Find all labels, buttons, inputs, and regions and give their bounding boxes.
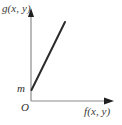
x-axis-label: f(x, y) xyxy=(84,106,110,117)
x-axis-arrow-icon xyxy=(104,98,114,105)
y-axis-label: g(x, y) xyxy=(2,3,31,14)
figure-container: g(x, y) f(x, y) m O xyxy=(0,0,122,125)
y-intercept-label: m xyxy=(17,83,25,94)
origin-label: O xyxy=(21,102,29,113)
data-line-series xyxy=(32,22,66,90)
